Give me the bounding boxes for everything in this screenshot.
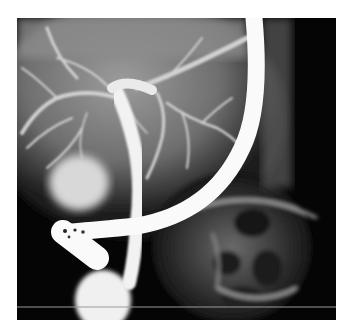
bowel-gas-pattern: [152, 173, 317, 320]
xray-image: [17, 18, 336, 320]
duodenum-bulb: [75, 270, 131, 320]
xray-svg: [17, 18, 336, 320]
right-soft-tissue: [262, 18, 292, 188]
gallbladder-region: [49, 155, 109, 211]
